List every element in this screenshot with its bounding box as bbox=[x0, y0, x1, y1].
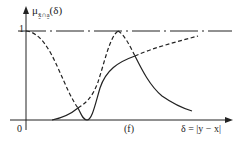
y-axis-label: μx̰̃∩a̰(δ) bbox=[32, 5, 62, 19]
y-axis-label-subscript: x̰̃∩a̰ bbox=[38, 11, 50, 19]
origin-label: 0 bbox=[17, 124, 22, 134]
axes bbox=[10, 12, 228, 130]
y-axis-arrow-icon bbox=[23, 6, 29, 14]
membership-diagram bbox=[0, 0, 237, 142]
y-axis-label-arg: (δ) bbox=[50, 4, 63, 16]
increasing-membership-dashed bbox=[135, 36, 198, 56]
intersection-envelope bbox=[52, 56, 192, 120]
hump-peak-dashed bbox=[118, 31, 135, 56]
solid-curve bbox=[52, 56, 192, 120]
x-marker-label: (f) bbox=[124, 124, 134, 134]
x-axis-arrow-icon bbox=[225, 117, 233, 123]
x-axis-label: δ = |y − x| bbox=[181, 124, 221, 134]
decreasing-membership-dashed bbox=[26, 31, 78, 108]
y-tick-one: 1 bbox=[19, 24, 24, 34]
